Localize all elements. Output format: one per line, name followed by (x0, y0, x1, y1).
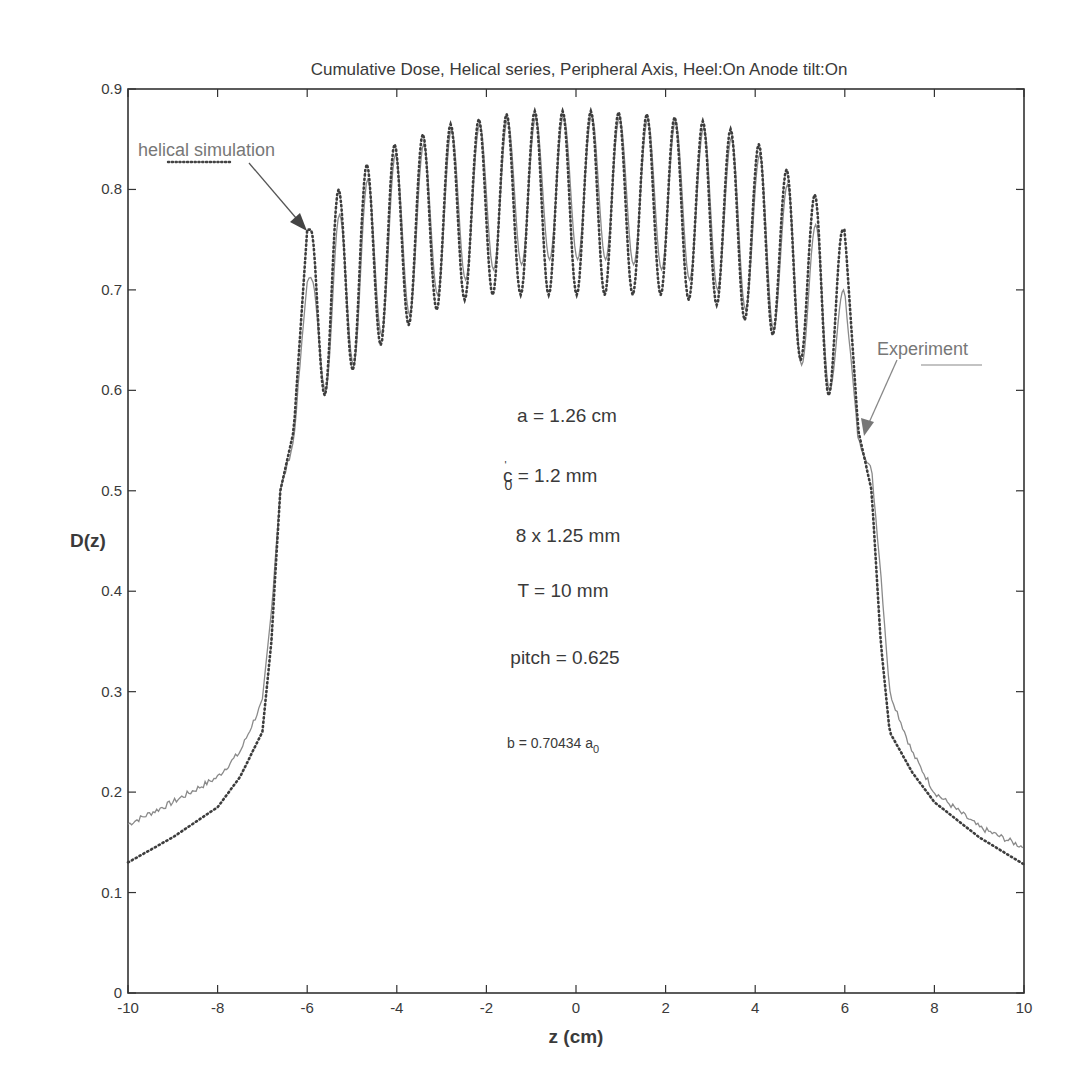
annotation-b: b = 0.70434 a0 (507, 735, 599, 755)
x-axis: -10-8-6-4-20246810 (117, 89, 1032, 1016)
y-tick-label: 0.5 (101, 482, 122, 499)
y-tick-label: 0.1 (101, 884, 122, 901)
y-tick-label: 0.8 (101, 180, 122, 197)
y-tick-label: 0.4 (101, 582, 122, 599)
y-tick-label: 0.7 (101, 281, 122, 298)
annotation-c0: c'0 = 1.2 mm (503, 459, 597, 493)
x-tick-label: -6 (301, 999, 314, 1016)
x-axis-label: z (cm) (549, 1026, 604, 1047)
arrowhead-icon (861, 418, 874, 436)
legend-label-helical-simulation: helical simulation (138, 140, 275, 160)
x-tick-label: -10 (117, 999, 139, 1016)
y-tick-label: 0.3 (101, 683, 122, 700)
x-tick-label: 0 (572, 999, 580, 1016)
x-tick-label: 4 (751, 999, 759, 1016)
y-tick-label: 0.2 (101, 783, 122, 800)
x-tick-label: 2 (661, 999, 669, 1016)
legend-label-experiment: Experiment (877, 339, 968, 359)
chart: Cumulative Dose, Helical series, Periphe… (0, 0, 1071, 1088)
y-axis-label: D(z) (70, 530, 106, 551)
x-tick-label: 10 (1016, 999, 1033, 1016)
arrow-to-simulation (249, 163, 302, 225)
annotation-pitch: pitch = 0.625 (510, 647, 619, 668)
x-tick-label: -8 (211, 999, 224, 1016)
x-tick-label: 6 (841, 999, 849, 1016)
arrowhead-icon (290, 213, 307, 231)
chart-title: Cumulative Dose, Helical series, Periphe… (311, 60, 848, 79)
y-tick-label: 0.9 (101, 80, 122, 97)
y-tick-label: 0.6 (101, 381, 122, 398)
x-tick-label: -2 (480, 999, 493, 1016)
x-tick-label: -4 (390, 999, 403, 1016)
annotation-a: a = 1.26 cm (517, 405, 617, 426)
series-helical-simulation-line (128, 111, 1024, 864)
annotation-collimation: 8 x 1.25 mm (516, 525, 621, 546)
x-tick-label: 8 (930, 999, 938, 1016)
arrow-to-experiment (868, 360, 897, 425)
annotation-T: T = 10 mm (518, 580, 609, 601)
